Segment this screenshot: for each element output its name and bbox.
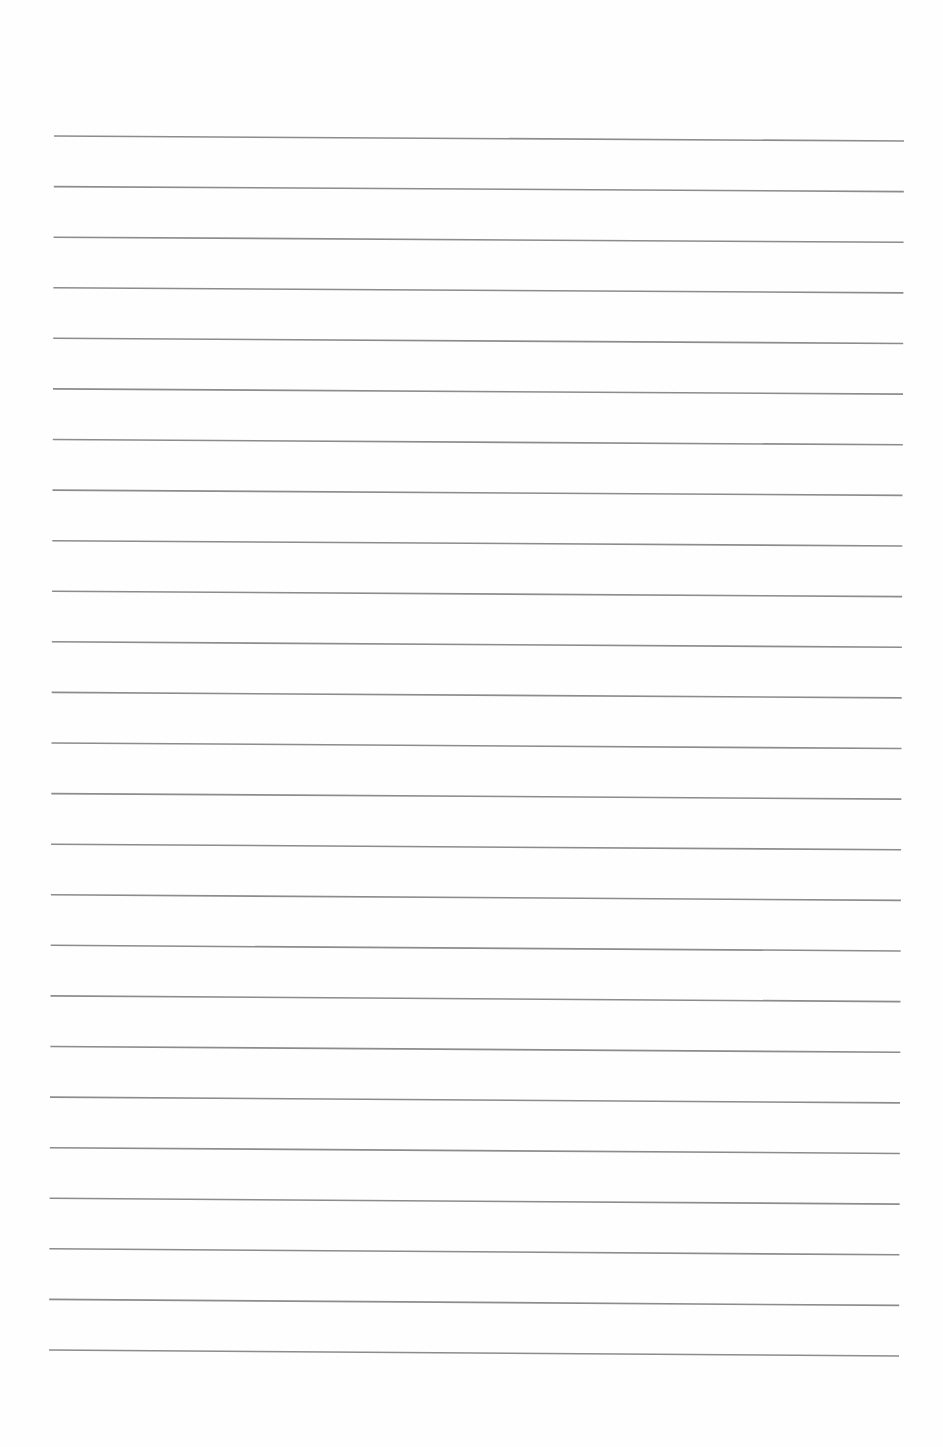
ruled-line bbox=[52, 692, 902, 698]
ruled-line bbox=[54, 187, 904, 192]
ruled-line bbox=[51, 945, 901, 951]
ruled-lines bbox=[0, 0, 943, 1447]
ruled-line bbox=[54, 237, 904, 242]
ruled-line bbox=[51, 794, 901, 800]
ruled-line bbox=[52, 743, 902, 749]
ruled-line bbox=[49, 1299, 899, 1305]
ruled-line bbox=[49, 1249, 899, 1255]
ruled-line bbox=[53, 288, 903, 293]
ruled-line bbox=[50, 1148, 900, 1154]
ruled-line bbox=[51, 996, 901, 1002]
ruled-line bbox=[53, 490, 903, 495]
ruled-line bbox=[53, 440, 903, 445]
ruled-line bbox=[50, 1198, 900, 1204]
ruled-line bbox=[54, 136, 904, 141]
ruled-line bbox=[50, 1047, 900, 1053]
ruled-line bbox=[51, 844, 901, 850]
ruled-line bbox=[51, 895, 901, 901]
ruled-line bbox=[52, 591, 902, 596]
ruled-line bbox=[50, 1097, 900, 1103]
ruled-line bbox=[53, 389, 903, 394]
ruled-line bbox=[52, 642, 902, 648]
ruled-line bbox=[52, 541, 902, 546]
ruled-line bbox=[49, 1350, 899, 1356]
ruled-line bbox=[53, 338, 903, 343]
ruled-paper-page bbox=[0, 0, 943, 1447]
